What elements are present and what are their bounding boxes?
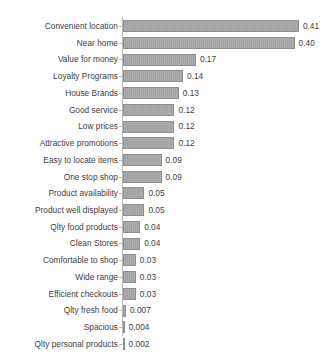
category-label: Clean Stores — [70, 235, 118, 252]
axis-tick — [119, 277, 122, 278]
bar-value-label: 0.002 — [129, 336, 150, 353]
bar-row: Good service0.12 — [0, 102, 336, 119]
bar — [123, 37, 295, 49]
bar-value-label: 0.03 — [140, 252, 156, 269]
bar — [123, 321, 125, 333]
bar-row: Efficient checkouts0.03 — [0, 286, 336, 303]
bar-row: Product availability0.05 — [0, 185, 336, 202]
bar-value-label: 0.03 — [140, 286, 156, 303]
category-label: Qlty food products — [50, 219, 118, 236]
bar-value-label: 0.17 — [200, 51, 216, 68]
axis-tick — [119, 43, 122, 44]
category-label: Product availability — [48, 185, 118, 202]
axis-tick — [119, 327, 122, 328]
category-label: Easy to locate items — [43, 152, 118, 169]
bar-value-label: 0.09 — [166, 152, 182, 169]
bar-value-label: 0.12 — [178, 118, 194, 135]
bar — [123, 20, 299, 32]
axis-tick — [119, 227, 122, 228]
bar — [123, 238, 140, 250]
bar-row: House Brands0.13 — [0, 85, 336, 102]
bar — [123, 254, 136, 266]
bar — [123, 187, 144, 199]
bar-row: Near home0.40 — [0, 35, 336, 52]
bar-row: Qlty personal products0.002 — [0, 336, 336, 353]
axis-tick — [119, 76, 122, 77]
category-label: Qlty personal products — [35, 336, 118, 353]
bar-value-label: 0.14 — [187, 68, 203, 85]
category-label: Comfortable to shop — [43, 252, 118, 269]
bar-row: Convenient location0.41 — [0, 18, 336, 35]
bar-row: Clean Stores0.04 — [0, 235, 336, 252]
bar — [123, 171, 162, 183]
category-label: Good service — [69, 102, 118, 119]
bar-row: Value for money0.17 — [0, 51, 336, 68]
bar — [123, 288, 136, 300]
axis-tick — [119, 26, 122, 27]
bar — [123, 121, 174, 133]
category-label: Spacious — [84, 319, 118, 336]
bar — [123, 137, 174, 149]
category-label: Qlty fresh food — [64, 302, 118, 319]
category-label: Near home — [77, 35, 118, 52]
bar — [123, 271, 136, 283]
bar — [123, 104, 174, 116]
category-label: Convenient location — [45, 18, 118, 35]
category-label: House Brands — [65, 85, 118, 102]
bar — [123, 54, 196, 66]
bar-row: Attractive promotions0.12 — [0, 135, 336, 152]
bar-row: Product well displayed0.05 — [0, 202, 336, 219]
axis-tick — [119, 59, 122, 60]
bar-row: Low prices0.12 — [0, 118, 336, 135]
axis-tick — [119, 110, 122, 111]
axis-tick — [119, 126, 122, 127]
axis-tick — [119, 143, 122, 144]
category-label: Loyalty Programs — [53, 68, 118, 85]
bar — [123, 70, 183, 82]
bar-value-label: 0.09 — [166, 169, 182, 186]
axis-tick — [119, 93, 122, 94]
axis-tick — [119, 260, 122, 261]
bar-value-label: 0.03 — [140, 269, 156, 286]
category-label: Attractive promotions — [40, 135, 118, 152]
bar-row: Easy to locate items0.09 — [0, 152, 336, 169]
bar — [123, 204, 144, 216]
axis-tick — [119, 177, 122, 178]
category-label: One stop shop — [64, 169, 118, 186]
bar-row: Wide range0.03 — [0, 269, 336, 286]
axis-tick — [119, 160, 122, 161]
category-label: Efficient checkouts — [49, 286, 118, 303]
bar — [123, 221, 140, 233]
category-label: Product well displayed — [35, 202, 118, 219]
bar-value-label: 0.40 — [299, 35, 315, 52]
category-label: Low prices — [78, 118, 118, 135]
bar-value-label: 0.04 — [144, 219, 160, 236]
bar-row: Loyalty Programs0.14 — [0, 68, 336, 85]
bar — [123, 338, 125, 350]
axis-tick — [119, 193, 122, 194]
bar-value-label: 0.13 — [183, 85, 199, 102]
bar-value-label: 0.004 — [129, 319, 150, 336]
category-label: Wide range — [75, 269, 118, 286]
category-label: Value for money — [58, 51, 118, 68]
bar — [123, 87, 179, 99]
bar-row: Spacious0.004 — [0, 319, 336, 336]
bar — [123, 305, 126, 317]
bar-row: One stop shop0.09 — [0, 169, 336, 186]
bar-value-label: 0.007 — [130, 302, 151, 319]
bar-value-label: 0.41 — [303, 18, 319, 35]
bar-value-label: 0.05 — [148, 185, 164, 202]
bar — [123, 154, 162, 166]
bar-value-label: 0.12 — [178, 135, 194, 152]
bar-value-label: 0.12 — [178, 102, 194, 119]
bar-row: Qlty food products0.04 — [0, 219, 336, 236]
axis-tick — [119, 294, 122, 295]
bar-row: Qlty fresh food0.007 — [0, 302, 336, 319]
bar-value-label: 0.04 — [144, 235, 160, 252]
bar-row: Comfortable to shop0.03 — [0, 252, 336, 269]
axis-tick — [119, 310, 122, 311]
bar-value-label: 0.05 — [148, 202, 164, 219]
axis-tick — [119, 243, 122, 244]
